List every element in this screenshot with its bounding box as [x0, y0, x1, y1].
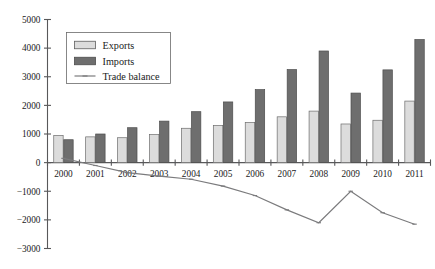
bar-exports — [277, 117, 286, 163]
bar-imports — [415, 40, 424, 163]
bar-exports — [373, 120, 382, 162]
x-tick-label: 2005 — [214, 169, 233, 179]
chart-canvas: 500040003000200010000−1000−2000−3000 200… — [0, 0, 435, 269]
bar-imports — [96, 134, 105, 163]
bar-imports — [255, 90, 264, 163]
bar-exports — [405, 101, 414, 163]
legend-label: Imports — [103, 56, 135, 67]
y-tick-label: 1000 — [22, 129, 41, 139]
y-tick-label: −3000 — [17, 244, 41, 254]
bar-imports — [191, 112, 200, 163]
x-tick-label: 2001 — [86, 169, 105, 179]
bar-imports — [351, 93, 360, 163]
bar-imports — [287, 70, 296, 163]
y-tick-label: 2000 — [22, 101, 41, 111]
x-tick-labels: 2000200120022003200420052006200720082009… — [54, 169, 424, 179]
y-tick-labels: 500040003000200010000−1000−2000−3000 — [17, 15, 41, 254]
line-series-trade-balance — [61, 158, 416, 224]
x-tick-label: 2010 — [373, 169, 392, 179]
bar-imports — [128, 128, 137, 163]
bar-imports — [383, 70, 392, 163]
y-tick-label: 5000 — [22, 15, 41, 25]
y-axis-group: 500040003000200010000−1000−2000−3000 — [17, 15, 51, 254]
bar-exports — [118, 138, 127, 163]
bar-exports — [341, 124, 350, 163]
x-tick-label: 2000 — [54, 169, 73, 179]
x-tick-label: 2007 — [278, 169, 297, 179]
bar-imports — [223, 102, 232, 163]
bar-exports — [309, 111, 318, 163]
trade-balance-polyline — [63, 158, 414, 224]
x-tick-label: 2008 — [309, 169, 328, 179]
x-tick-label: 2003 — [150, 169, 169, 179]
bar-exports — [86, 137, 95, 163]
x-tick-label: 2004 — [182, 169, 201, 179]
y-tick-label: 4000 — [22, 43, 41, 53]
legend-swatch-imports — [75, 57, 96, 65]
bar-exports — [181, 128, 190, 162]
legend-label: Exports — [103, 40, 135, 51]
y-tick-label: 0 — [36, 158, 41, 168]
y-tick-label: −2000 — [17, 215, 41, 225]
chart-legend: ExportsImportsTrade balance — [67, 33, 171, 84]
trade-chart: 500040003000200010000−1000−2000−3000 200… — [0, 0, 435, 269]
legend-swatch-exports — [75, 41, 96, 49]
bar-exports — [245, 123, 254, 163]
bar-imports — [160, 121, 169, 163]
bar-exports — [213, 125, 222, 162]
x-tick-label: 2009 — [341, 169, 360, 179]
legend-label: Trade balance — [103, 71, 161, 82]
y-tick-label: 3000 — [22, 72, 41, 82]
bar-imports — [319, 51, 328, 163]
y-tick-label: −1000 — [17, 187, 41, 197]
bar-exports — [149, 135, 158, 163]
x-tick-label: 2006 — [246, 169, 265, 179]
x-tick-label: 2011 — [405, 169, 424, 179]
